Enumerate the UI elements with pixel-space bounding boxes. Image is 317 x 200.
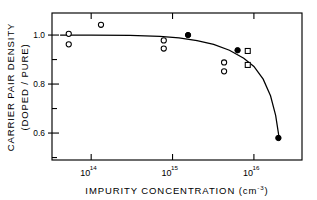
- x-tick-label-mantissa-2: 10: [243, 168, 253, 178]
- y-tick-label-2: 0.6: [33, 128, 45, 138]
- point-open-square-0: [245, 48, 250, 53]
- svg-text:CARRIER PAIR DENSITY: CARRIER PAIR DENSITY: [5, 23, 16, 152]
- point-open-circle-1: [66, 42, 71, 47]
- x-tick-label-mantissa-0: 10: [80, 168, 90, 178]
- point-filled-circle-2: [276, 135, 281, 140]
- point-open-circle-3: [161, 38, 166, 43]
- chart-background: [0, 0, 317, 200]
- x-tick-label-mantissa-1: 10: [162, 168, 172, 178]
- y-tick-label-0: 1.0: [33, 30, 45, 40]
- svg-text:IMPURITY CONCENTRATION (cm-3): IMPURITY CONCENTRATION (cm-3): [85, 184, 268, 196]
- point-open-circle-5: [221, 60, 226, 65]
- chart-figure: 101410151016 1.00.80.6 IMPURITY CONCENTR…: [0, 0, 317, 200]
- scatter-plot-svg: 101410151016 1.00.80.6 IMPURITY CONCENTR…: [0, 0, 317, 200]
- point-open-circle-0: [66, 31, 71, 36]
- point-filled-circle-0: [185, 32, 190, 37]
- point-filled-circle-1: [235, 48, 240, 53]
- x-tick-label-exponent-0: 14: [90, 164, 97, 171]
- svg-text:(DOPED / PURE): (DOPED / PURE): [19, 43, 30, 130]
- x-tick-label-exponent-2: 16: [252, 164, 259, 171]
- point-open-circle-6: [221, 69, 226, 74]
- point-open-circle-4: [161, 46, 166, 51]
- x-tick-label-exponent-1: 15: [171, 164, 178, 171]
- y-tick-label-1: 0.8: [33, 79, 45, 89]
- x-axis-title: IMPURITY CONCENTRATION (cm-3): [85, 184, 268, 196]
- point-open-square-1: [245, 62, 250, 67]
- point-open-circle-2: [98, 22, 103, 27]
